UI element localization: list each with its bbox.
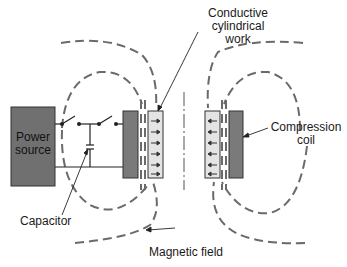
compression-coil-left [123,111,138,178]
power-source-label: Power source [11,131,55,157]
power-source-label-line2: source [11,144,55,157]
magnetic-field-label: Magnetic field [149,246,223,259]
coil-label-line2: coil [265,134,347,147]
compression-coil-right [229,111,243,178]
work-label-line3: work [198,33,278,46]
capacitor-label: Capacitor [20,215,71,228]
work-label: Conductive cylindrical work [198,7,278,46]
coil-label: Compression coil [265,121,347,147]
circuit-wires [55,116,123,167]
